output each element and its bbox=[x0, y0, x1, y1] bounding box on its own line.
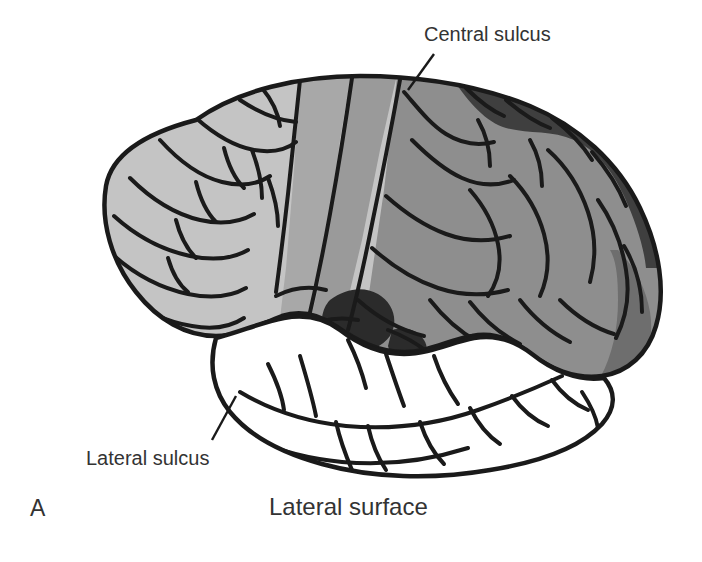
brain-diagram bbox=[0, 0, 702, 562]
label-central-sulcus: Central sulcus bbox=[424, 24, 551, 44]
brain-lateral-surface-figure: Central sulcus Lateral sulcus A Lateral … bbox=[0, 0, 702, 562]
panel-letter: A bbox=[30, 497, 45, 520]
figure-caption: Lateral surface bbox=[269, 495, 428, 519]
label-lateral-sulcus: Lateral sulcus bbox=[86, 448, 209, 468]
